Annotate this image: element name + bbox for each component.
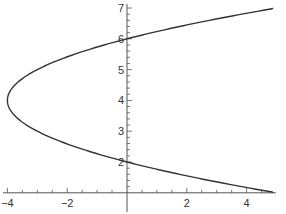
y-tick-label: 7 (118, 2, 124, 14)
x-tick-label: −4 (1, 197, 14, 209)
y-tick-label: 6 (118, 33, 124, 45)
x-tick-label: 2 (184, 197, 190, 209)
parabola-curve (7, 8, 273, 193)
y-tick-label: 2 (118, 156, 124, 168)
tick-labels: −4−224234567 (1, 2, 250, 209)
x-tick-label: 4 (244, 197, 250, 209)
axis-ticks (7, 8, 261, 193)
y-tick-label: 4 (118, 94, 124, 106)
parabola-plot: −4−224234567 (0, 0, 286, 214)
y-tick-label: 3 (118, 125, 124, 137)
x-tick-label: −2 (61, 197, 74, 209)
y-tick-label: 5 (118, 64, 124, 76)
